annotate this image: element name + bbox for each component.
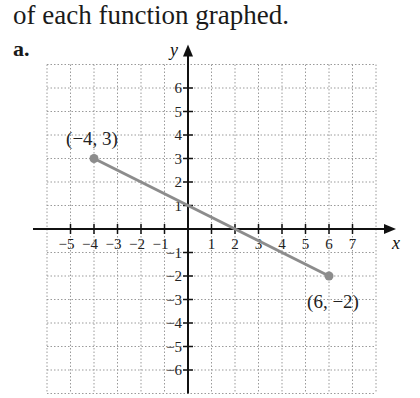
x-tick-label: −2 [129,236,145,252]
y-axis-arrow-icon [183,45,193,57]
endpoint-label: (6, −2) [307,291,359,313]
x-tick-label: 2 [231,236,239,252]
y-tick-label: 6 [175,80,183,96]
x-axis-label: x [391,233,400,253]
y-tick-label: −4 [166,315,182,331]
closed-endpoint-dot [325,272,334,281]
y-axis-label: y [168,40,178,60]
y-tick-label: −2 [166,268,182,284]
x-tick-label: −4 [82,236,98,252]
x-tick-label: 7 [349,236,357,252]
y-tick-label: 3 [175,151,183,167]
y-tick-label: −1 [166,245,182,261]
closed-endpoint-dot [90,154,99,163]
y-tick-label: −3 [166,292,182,308]
y-tick-label: −6 [166,362,182,378]
y-tick-label: 5 [175,104,183,120]
function-graph: xy −5−4−3−2−11234567654321−1−2−3−4−5−6 (… [0,0,420,398]
x-tick-label: 5 [302,236,310,252]
y-tick-label: −5 [166,339,182,355]
point-labels: (−4, 3)(6, −2) [66,128,359,314]
x-tick-label: −3 [106,236,122,252]
x-tick-label: 1 [208,236,216,252]
endpoint-label: (−4, 3) [66,128,118,150]
axes: xy [33,40,400,394]
x-tick-label: −5 [59,236,75,252]
x-tick-label: 6 [325,236,333,252]
y-tick-label: 4 [175,127,183,143]
y-tick-label: 2 [175,174,183,190]
